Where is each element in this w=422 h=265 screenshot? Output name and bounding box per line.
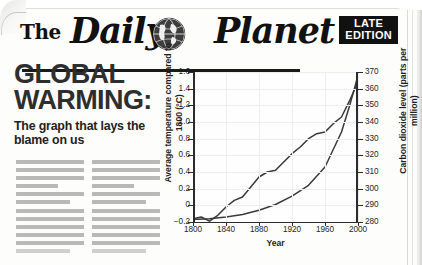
chart-right-tick-label: 340: [365, 117, 379, 126]
masthead-planet: Planet: [214, 10, 334, 51]
body-text-line: [92, 249, 146, 253]
chart-left-tick-label: 0: [160, 200, 190, 209]
chart-x-axis-title: Year: [193, 238, 358, 248]
body-text-line: [92, 200, 146, 204]
chart-lines: [193, 72, 358, 222]
chart-gridline-h: [193, 205, 358, 206]
article-column: GLOBAL WARMING: The graph that lays the …: [14, 62, 166, 148]
chart-right-axis-spine: [356, 72, 358, 222]
chart-right-tick: [358, 89, 363, 90]
chart-x-tick-label: 1800: [176, 225, 210, 234]
chart-right-tick: [358, 205, 363, 206]
chart-right-tick-label: 330: [365, 134, 379, 143]
body-text-column-left: [16, 160, 84, 257]
body-text-line: [16, 184, 58, 188]
chart-right-tick-label: 300: [365, 184, 379, 193]
body-text-line: [16, 225, 84, 229]
body-text-line: [16, 168, 84, 172]
chart-plot-area: [193, 72, 358, 222]
body-text-line: [16, 249, 70, 253]
body-text-line: [16, 192, 84, 196]
chart-gridline-h: [193, 189, 358, 190]
body-text-line: [16, 241, 84, 245]
subheadline: The graph that lays the blame on us: [14, 119, 166, 148]
chart-right-tick: [358, 105, 363, 106]
chart-right-axis-title: Carbon dioxide level (parts per million): [398, 40, 419, 182]
chart-right-tick: [358, 122, 363, 123]
chart-gridline-h: [193, 172, 358, 173]
climate-chart: −0.200.20.40.60.81.01.21.41.6 2802903003…: [150, 62, 422, 262]
masthead-the: The: [20, 20, 61, 44]
headline: GLOBAL WARMING:: [14, 62, 166, 114]
headline-line-2: WARMING:: [14, 88, 166, 114]
chart-x-tick-label: 1920: [275, 225, 309, 234]
body-text-line: [16, 200, 70, 204]
chart-gridline-h: [193, 122, 358, 123]
chart-right-tick-label: 370: [365, 67, 379, 76]
chart-x-tick-label: 1840: [209, 225, 243, 234]
badge-line-1: LATE: [345, 18, 392, 30]
chart-gridline-v: [259, 72, 260, 222]
chart-series-line: [193, 82, 358, 221]
body-text-line: [16, 209, 84, 213]
chart-right-tick-label: 350: [365, 100, 379, 109]
late-edition-badge: LATE EDITION: [339, 16, 398, 44]
chart-right-tick-label: 320: [365, 150, 379, 159]
chart-left-axis-title: Average temperature compared to 1800 (°C…: [163, 42, 184, 184]
chart-right-tick-label: 310: [365, 167, 379, 176]
body-text-line: [16, 217, 84, 221]
chart-gridline-v: [325, 72, 326, 222]
chart-gridline-v: [226, 72, 227, 222]
body-text-line: [16, 160, 84, 164]
badge-line-2: EDITION: [345, 30, 392, 42]
chart-gridline-h: [193, 155, 358, 156]
chart-left-tick-label: 0.2: [160, 184, 190, 193]
chart-gridline-h: [193, 139, 358, 140]
chart-gridline-h: [193, 72, 358, 73]
chart-right-tick: [358, 139, 363, 140]
chart-x-tick-label: 1960: [308, 225, 342, 234]
body-text-line: [16, 233, 84, 237]
masthead: The Daily Planet LATE EDITION: [0, 12, 422, 56]
chart-right-tick-label: 290: [365, 200, 379, 209]
masthead-daily: Daily: [70, 10, 165, 51]
chart-right-tick: [358, 155, 363, 156]
article-body-placeholder: [16, 160, 160, 257]
chart-x-tick-label: 1880: [242, 225, 276, 234]
newspaper-page: The Daily Planet LATE EDITION: [0, 0, 422, 265]
body-text-line: [16, 176, 84, 180]
chart-right-tick: [358, 189, 363, 190]
body-text-line: [92, 184, 134, 188]
chart-bottom-axis-spine: [193, 222, 358, 223]
chart-right-tick: [358, 72, 363, 73]
chart-gridline-v: [292, 72, 293, 222]
chart-right-tick-label: 360: [365, 84, 379, 93]
chart-series-line: [193, 75, 358, 219]
chart-gridline-h: [193, 89, 358, 90]
chart-gridline-h: [193, 105, 358, 106]
chart-gridline-v: [358, 72, 359, 222]
chart-x-tick-label: 2000: [341, 225, 375, 234]
chart-right-tick: [358, 172, 363, 173]
chart-left-axis-spine: [193, 72, 195, 222]
